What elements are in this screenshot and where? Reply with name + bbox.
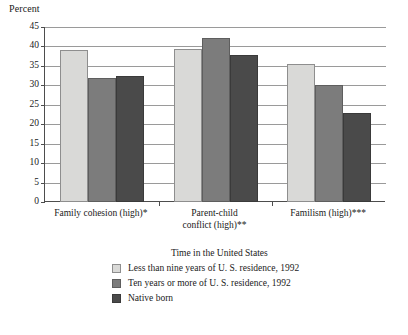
bar — [230, 55, 258, 202]
legend-item: Native born — [112, 293, 362, 304]
y-axis-tick-label: 35 — [30, 61, 40, 71]
legend-entries: Less than nine years of U. S. residence,… — [112, 263, 362, 304]
bars-group — [45, 27, 386, 202]
bar — [116, 76, 144, 202]
bar — [174, 49, 202, 202]
y-axis-tick-label: 15 — [30, 139, 40, 149]
x-axis-category-label: Familism (high)*** — [259, 208, 397, 220]
plot-area: 454035302520151050 — [44, 27, 385, 202]
y-axis-tick-label: 0 — [34, 197, 39, 207]
legend-item-label: Native born — [128, 293, 173, 304]
bar — [60, 50, 88, 202]
legend-item: Ten years or more of U. S. residence, 19… — [112, 278, 362, 289]
legend-item-label: Less than nine years of U. S. residence,… — [128, 263, 299, 274]
legend: Time in the United States Less than nine… — [112, 248, 362, 308]
x-axis-tick-mark — [159, 202, 160, 206]
y-axis-tick-label: 40 — [30, 42, 40, 52]
y-axis-tick-mark — [41, 202, 45, 203]
bar — [315, 85, 343, 202]
legend-item-label: Ten years or more of U. S. residence, 19… — [128, 278, 291, 289]
bar — [287, 64, 315, 202]
y-axis-title: Percent — [9, 3, 40, 14]
bar — [88, 78, 116, 202]
legend-swatch — [112, 294, 121, 303]
y-axis-tick-label: 5 — [34, 178, 39, 188]
bar — [343, 113, 371, 202]
x-axis-tick-mark — [272, 202, 273, 206]
y-axis-tick-label: 45 — [30, 22, 40, 32]
legend-swatch — [112, 264, 121, 273]
legend-item: Less than nine years of U. S. residence,… — [112, 263, 362, 274]
y-axis-tick-label: 20 — [30, 119, 40, 129]
y-axis-tick-label: 30 — [30, 81, 40, 91]
bar — [202, 38, 230, 202]
legend-swatch — [112, 279, 121, 288]
y-axis-tick-label: 10 — [30, 158, 40, 168]
bar-chart: Percent 454035302520151050 Family cohesi… — [0, 0, 408, 335]
legend-title: Time in the United States — [171, 248, 362, 258]
y-axis-tick-label: 25 — [30, 100, 40, 110]
